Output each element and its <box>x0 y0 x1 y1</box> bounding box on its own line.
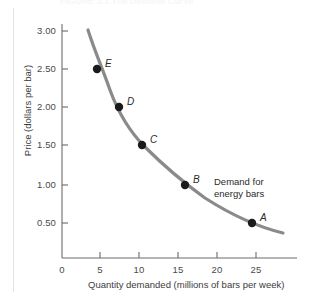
data-point-d <box>115 103 123 111</box>
x-tick-label-20: 20 <box>205 264 229 275</box>
y-tick-label-1-00: 1.00 <box>22 179 56 190</box>
curve-annotation: Demand for energy bars <box>214 176 264 199</box>
point-label-a: A <box>260 212 267 223</box>
x-tick-label-10: 10 <box>127 264 151 275</box>
curve-annotation-line2: energy bars <box>214 188 264 200</box>
y-tick-label-3-00: 3.00 <box>22 25 56 36</box>
x-tick-label-5: 5 <box>88 264 112 275</box>
x-axis-ticks <box>100 252 256 258</box>
data-point-b <box>181 181 189 189</box>
point-label-d: D <box>127 96 134 107</box>
demand-curve-figure: FIGURE 3.1 The Demand Curve <box>0 0 315 299</box>
x-tick-label-15: 15 <box>166 264 190 275</box>
data-point-a <box>248 219 256 227</box>
x-tick-label-0: 0 <box>50 264 74 275</box>
x-tick-label-25: 25 <box>244 264 268 275</box>
x-axis-title: Quantity demanded (millions of bars per … <box>88 279 284 290</box>
y-axis-ticks <box>62 31 68 223</box>
point-label-b: B <box>193 174 200 185</box>
data-point-c <box>138 141 146 149</box>
y-tick-label-0-50: 0.50 <box>22 217 56 228</box>
data-point-e <box>93 65 101 73</box>
demand-curve <box>88 30 283 233</box>
y-axis-title: Price (dollars per bar) <box>22 56 33 166</box>
curve-annotation-line1: Demand for <box>214 176 264 188</box>
point-label-e: E <box>105 58 112 69</box>
point-label-c: C <box>150 134 157 145</box>
